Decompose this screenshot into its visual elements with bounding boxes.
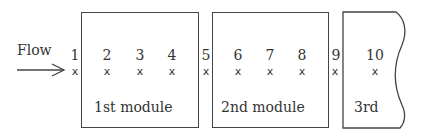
point-10-marker: x [365,66,385,77]
point-7-marker: x [260,66,280,77]
point-8-label: 8 [292,48,312,62]
point-9-label: 9 [326,48,346,62]
point-5-label: 5 [196,48,216,62]
point-1-label: 1 [65,48,85,62]
point-5-marker: x [196,66,216,77]
point-9-marker: x [325,66,345,77]
point-10-label: 10 [363,48,387,62]
module-1-label: 1st module [94,100,173,114]
point-2-label: 2 [97,48,117,62]
point-4-marker: x [162,66,182,77]
point-2-marker: x [97,66,117,77]
flow-arrow-icon [17,64,64,76]
point-7-label: 7 [260,48,280,62]
flow-label: Flow [17,43,52,57]
point-4-label: 4 [162,48,182,62]
point-3-marker: x [130,66,150,77]
point-6-marker: x [228,66,248,77]
point-8-marker: x [292,66,312,77]
module-2-label: 2nd module [221,100,305,114]
module-3-label: 3rd [354,100,379,114]
point-1-marker: x [65,66,85,77]
point-6-label: 6 [228,48,248,62]
point-3-label: 3 [130,48,150,62]
